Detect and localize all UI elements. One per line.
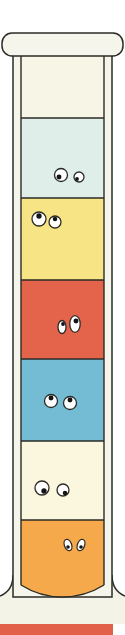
liquid-layer-blue bbox=[21, 359, 104, 441]
cylinder-svg bbox=[0, 0, 125, 635]
cylinder-rim bbox=[2, 33, 123, 56]
liquid-layer-light-cyan bbox=[21, 118, 104, 198]
liquid-layers bbox=[21, 118, 104, 597]
liquid-layer-yellow bbox=[21, 198, 104, 280]
liquid-layer-red bbox=[21, 280, 104, 359]
bottom-bar bbox=[0, 624, 113, 635]
graduated-cylinder-illustration bbox=[0, 0, 125, 635]
liquid-layer-orange bbox=[21, 520, 104, 597]
tube-empty-space bbox=[21, 55, 104, 118]
liquid-layer-cream bbox=[21, 441, 104, 520]
